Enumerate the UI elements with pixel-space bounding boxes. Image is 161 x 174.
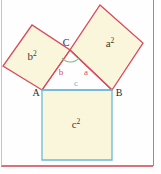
page-border-left	[1, 0, 2, 166]
vertex-label-A: A	[32, 87, 40, 98]
side-label-b: b	[59, 67, 64, 77]
figure-canvas: b2 a2 c2 A B C b a c	[0, 0, 161, 174]
side-label-c: c	[74, 78, 78, 88]
label-b-squared-exponent: 2	[33, 49, 37, 58]
page-border-bottom	[1, 165, 153, 167]
vertex-label-C: C	[63, 37, 70, 48]
page-border-right	[153, 0, 155, 166]
side-label-a: a	[84, 67, 88, 77]
vertex-label-B: B	[116, 87, 123, 98]
label-a-squared-exponent: 2	[111, 36, 115, 45]
label-c-squared-exponent: 2	[77, 117, 81, 126]
pythagorean-theorem-figure: b2 a2 c2 A B C b a c	[0, 0, 161, 174]
